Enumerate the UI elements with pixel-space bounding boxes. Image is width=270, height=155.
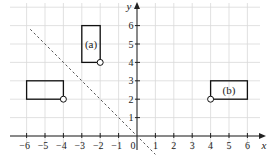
x-tick-label: 0 — [131, 140, 136, 151]
vertex-marker-icon — [208, 96, 214, 102]
vertex-marker-icon — [60, 96, 66, 102]
y-tick-label: 1 — [129, 112, 134, 123]
original-rectangle — [27, 81, 67, 102]
x-tick-label: −2 — [93, 140, 104, 151]
grid-lines — [10, 3, 260, 150]
y-tick-label: 3 — [129, 75, 134, 86]
rectangle-a-label: (a) — [85, 38, 98, 51]
y-tick-label: 4 — [129, 57, 134, 68]
x-tick-label: −6 — [19, 140, 30, 151]
x-tick-label: −5 — [38, 140, 49, 151]
x-tick-label: 2 — [171, 140, 176, 151]
y-axis-arrow-icon — [134, 2, 140, 9]
vertex-marker-icon — [97, 59, 103, 65]
x-tick-label: 3 — [190, 140, 195, 151]
rectangle-b-label: (b) — [223, 84, 236, 97]
x-tick-label: 6 — [245, 140, 250, 151]
y-tick-label: 2 — [129, 94, 134, 105]
rectangle-b: (b) — [208, 81, 248, 102]
y-axis-label: y — [126, 0, 132, 12]
x-tick-label: 4 — [208, 140, 213, 151]
y-tick-label: 6 — [129, 20, 134, 31]
x-tick-label: −3 — [74, 140, 85, 151]
rectangle-a: (a) — [82, 26, 103, 66]
axes: xy — [10, 0, 267, 151]
tick-labels: −6−5−4−3−2−10123456123456 — [19, 20, 250, 151]
coordinate-plane: xy −6−5−4−3−2−10123456123456 (a)(b) — [0, 0, 270, 155]
y-tick-label: 5 — [129, 39, 134, 50]
x-tick-label: −1 — [111, 140, 122, 151]
x-tick-label: 5 — [227, 140, 232, 151]
x-tick-label: 1 — [153, 140, 158, 151]
x-axis-label: x — [261, 139, 267, 151]
x-tick-label: −4 — [56, 140, 67, 151]
